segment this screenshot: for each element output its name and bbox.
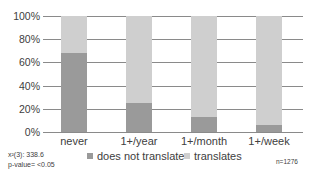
x-label-never: never xyxy=(39,135,109,147)
sample-size: n=1276 xyxy=(276,158,298,165)
y-tick-0: 0% xyxy=(0,126,40,138)
segment-translates xyxy=(126,16,152,103)
segment-does-not-translate xyxy=(191,117,217,132)
bar-1-week xyxy=(256,16,282,132)
chi-square-text: x²(3): 338.6 xyxy=(8,150,55,160)
statistics: x²(3): 338.6 p-value= <0.05 xyxy=(8,150,55,170)
x-label-year: 1+/year xyxy=(104,135,174,147)
x-axis xyxy=(43,132,303,133)
bar-never xyxy=(61,16,87,132)
y-tick-80: 80% xyxy=(0,33,40,45)
legend-item-does-not-translate: does not translate xyxy=(87,150,184,162)
legend-item-translates: translates xyxy=(184,150,242,162)
y-tick-60: 60% xyxy=(0,56,40,68)
segment-does-not-translate xyxy=(126,103,152,132)
p-value-text: p-value= <0.05 xyxy=(8,160,55,170)
y-tick-100: 100% xyxy=(0,10,40,22)
y-tick-20: 20% xyxy=(0,103,40,115)
legend-swatch-light xyxy=(184,153,190,159)
x-label-week: 1+/week xyxy=(234,135,304,147)
legend-swatch-dark xyxy=(87,153,93,159)
legend-label: does not translate xyxy=(97,150,184,162)
y-tick-40: 40% xyxy=(0,80,40,92)
bar-1-month xyxy=(191,16,217,132)
segment-translates xyxy=(191,16,217,117)
x-label-month: 1+/month xyxy=(169,135,239,147)
segment-does-not-translate xyxy=(256,125,282,132)
segment-translates xyxy=(256,16,282,125)
segment-translates xyxy=(61,16,87,53)
legend-label: translates xyxy=(194,150,242,162)
bar-1-year xyxy=(126,16,152,132)
segment-does-not-translate xyxy=(61,53,87,132)
